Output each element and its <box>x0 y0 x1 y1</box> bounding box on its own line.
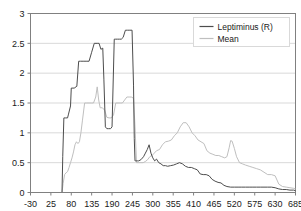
chart-canvas: 00.511.522.53-30258013519024530035541046… <box>0 0 301 211</box>
legend-label-1: Leptiminus (R) <box>218 22 273 32</box>
x-axis-tick-label: 410 <box>186 199 201 209</box>
y-axis-tick-label: 1.5 <box>12 98 25 108</box>
x-axis-tick-label: 685 <box>288 199 301 209</box>
y-axis-tick-label: 1 <box>19 128 24 138</box>
y-axis-tick-label: 2 <box>19 68 24 78</box>
y-axis-tick-label: 3 <box>19 9 24 19</box>
y-axis-tick-label: 0.5 <box>12 158 25 168</box>
x-axis-tick-label: 465 <box>206 199 221 209</box>
y-axis-tick-label: 2.5 <box>12 39 25 49</box>
x-axis-tick-label: 355 <box>166 199 181 209</box>
x-axis-tick-label: 300 <box>145 199 160 209</box>
line-chart: 00.511.522.53-30258013519024530035541046… <box>0 0 301 211</box>
x-axis-tick-label: 80 <box>66 199 76 209</box>
x-axis-tick-label: 520 <box>227 199 242 209</box>
x-axis-tick-label: -30 <box>24 199 37 209</box>
x-axis-tick-label: 630 <box>268 199 283 209</box>
legend-label-2: Mean <box>218 34 240 44</box>
x-axis-tick-label: 190 <box>105 199 120 209</box>
x-axis-tick-label: 135 <box>84 199 99 209</box>
y-axis-tick-label: 0 <box>19 188 24 198</box>
x-axis-tick-label: 245 <box>125 199 140 209</box>
x-axis-tick-label: 575 <box>247 199 262 209</box>
x-axis-tick-label: 25 <box>46 199 56 209</box>
